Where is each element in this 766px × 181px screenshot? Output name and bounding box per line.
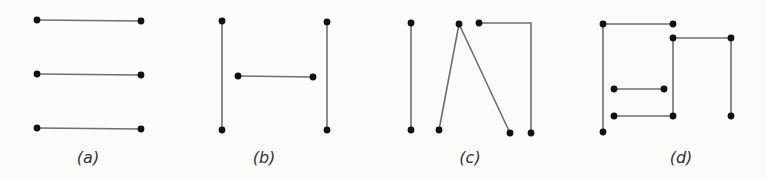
node [34,125,41,132]
node [138,126,145,133]
edge [439,24,510,133]
edge [238,76,313,77]
panel-d: (d) [600,21,735,167]
node [219,127,226,134]
edge [37,20,141,21]
edge [37,74,141,75]
panel-label-c: (c) [459,148,480,167]
node [600,129,607,136]
panel-a: (a) [34,17,145,167]
node [728,113,735,120]
node [456,21,463,28]
node [138,72,145,79]
node [436,127,443,134]
node [310,74,317,81]
node [408,20,415,27]
edge [614,38,731,116]
edge [37,128,141,129]
node [507,130,514,137]
node [34,71,41,78]
node [670,113,677,120]
node [670,35,677,42]
node [476,20,483,27]
node [34,17,41,24]
node [219,18,226,25]
node [138,18,145,25]
node [408,127,415,134]
panel-c: (c) [408,20,535,167]
edge [479,23,531,133]
node [235,73,242,80]
node [324,127,331,134]
panel-b: (b) [219,18,331,167]
node [611,86,618,93]
node [661,86,668,93]
node [611,113,618,120]
node [670,21,677,28]
panel-label-d: (d) [670,148,693,167]
node [528,130,535,137]
node [728,35,735,42]
node [324,19,331,26]
node [600,21,607,28]
panel-label-a: (a) [77,148,99,167]
panel-label-b: (b) [253,148,276,167]
figure-canvas: (a) (b) (c) [0,0,766,181]
